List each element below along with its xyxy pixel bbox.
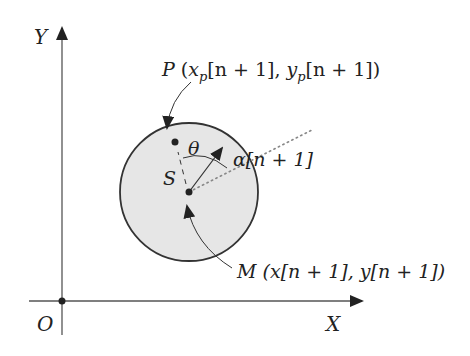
m-coords: (x[n + 1], y[n + 1]) [256, 260, 445, 282]
y-axis-label: Y [34, 25, 49, 49]
point-m-label: M (x[n + 1], y[n + 1]) [236, 260, 445, 282]
p-x-idx: [n + 1], [207, 58, 286, 80]
point-m [186, 189, 193, 196]
m-name: M [236, 260, 257, 282]
p-y-idx: [n + 1]) [306, 58, 381, 80]
p-name: P [161, 58, 176, 80]
origin-label: O [37, 312, 53, 336]
alpha-label: α[n + 1] [233, 148, 314, 170]
point-p-label: P (xp[n + 1], yp[n + 1]) [161, 58, 380, 84]
point-p [172, 139, 179, 146]
diagram-canvas: Y X O P (xp[n + 1], yp[n + 1]) θ α[n + 1… [0, 0, 470, 356]
s-label: S [163, 167, 176, 189]
p-open: ( [175, 58, 188, 80]
p-y: y [286, 58, 298, 80]
p-x: x [188, 58, 199, 80]
origin-point [59, 298, 66, 305]
x-axis-label: X [324, 312, 341, 336]
p-callout-arrow [167, 82, 191, 128]
theta-label: θ [188, 137, 200, 159]
